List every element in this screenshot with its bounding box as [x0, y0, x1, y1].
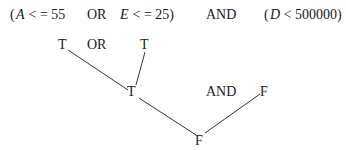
- node-or-result: T: [127, 84, 136, 100]
- condition-a: < = 55: [25, 7, 65, 23]
- node-and-label: AND: [206, 84, 236, 100]
- operator-or: OR: [87, 7, 106, 23]
- open-paren-2: (: [264, 7, 269, 23]
- node-d-value: F: [260, 84, 268, 100]
- variable-d: D: [270, 7, 280, 23]
- variable-e: E: [120, 7, 129, 23]
- open-paren-1: (: [10, 7, 15, 23]
- operator-and: AND: [206, 7, 236, 23]
- condition-e: < = 25): [129, 7, 174, 23]
- node-a-value: T: [58, 37, 67, 53]
- node-e-value: T: [140, 37, 149, 53]
- edge-e-to-or: [136, 52, 145, 85]
- edge-a-to-or: [68, 50, 128, 90]
- condition-d: < 500000): [280, 7, 342, 23]
- node-final-result: F: [195, 133, 203, 149]
- variable-a: A: [16, 7, 25, 23]
- edge-or-to-and: [139, 98, 196, 135]
- node-or-label: OR: [87, 37, 106, 53]
